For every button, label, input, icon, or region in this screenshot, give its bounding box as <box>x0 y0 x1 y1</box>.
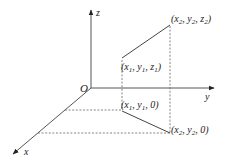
z-axis-label: z <box>95 7 100 18</box>
x-axis <box>13 88 91 154</box>
coordinate-diagram: z y x O (x2, y2, z2) (x1, y1, z1) (x1, y… <box>0 0 236 164</box>
segment-projection <box>122 111 170 133</box>
point-p1-projection-label: (x1, y1, 0) <box>121 99 159 112</box>
x-axis-label: x <box>23 146 29 157</box>
y-axis-label: y <box>204 91 210 102</box>
point-p1-label: (x1, y1, z1) <box>121 61 162 74</box>
segment-p1-p2 <box>122 25 170 58</box>
origin-label: O <box>80 82 88 94</box>
point-p2-label: (x2, y2, z2) <box>171 13 212 26</box>
point-p2-projection-label: (x2, y2, 0) <box>171 124 209 137</box>
